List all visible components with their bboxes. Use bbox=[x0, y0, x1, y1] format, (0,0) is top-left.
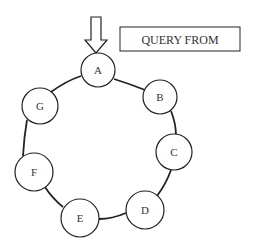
node-d: D bbox=[126, 191, 164, 229]
node-c-label: C bbox=[170, 146, 177, 158]
edge-d-e bbox=[99, 213, 126, 219]
node-d-label: D bbox=[141, 204, 149, 216]
node-c: C bbox=[156, 134, 192, 170]
down-arrow-icon bbox=[85, 17, 107, 53]
node-f-label: F bbox=[31, 166, 37, 178]
edge-e-f bbox=[45, 187, 63, 207]
node-g: G bbox=[22, 88, 58, 124]
node-e-label: E bbox=[77, 212, 84, 224]
node-b: B bbox=[143, 80, 177, 114]
node-a: A bbox=[81, 53, 115, 87]
node-g-label: G bbox=[36, 100, 44, 112]
node-b-label: B bbox=[156, 91, 163, 103]
edge-a-b bbox=[114, 79, 145, 90]
edge-g-a bbox=[51, 76, 81, 92]
edge-c-d bbox=[157, 170, 171, 196]
node-e: E bbox=[61, 199, 99, 237]
query-from-label: QUERY FROM bbox=[141, 33, 219, 47]
node-a-label: A bbox=[94, 64, 102, 76]
query-from-box: QUERY FROM bbox=[120, 27, 240, 51]
edge-b-c bbox=[171, 111, 176, 135]
edge-f-g bbox=[23, 120, 27, 156]
ring-diagram: QUERY FROM A B C D E F G bbox=[0, 0, 255, 248]
node-f: F bbox=[15, 153, 53, 191]
